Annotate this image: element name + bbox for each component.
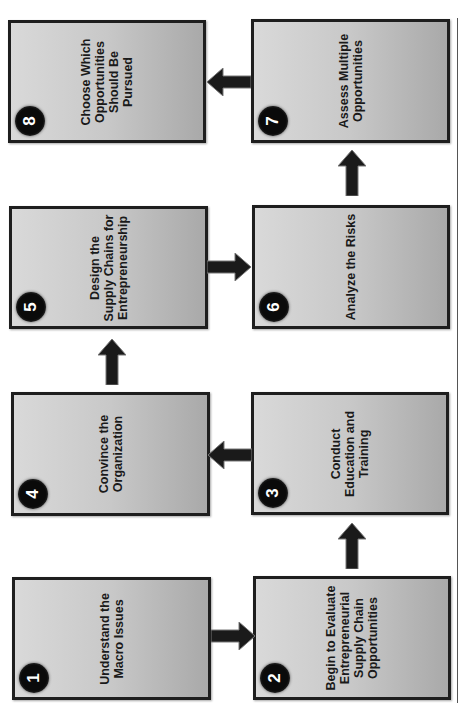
step-label-3: Conduct Education and Training xyxy=(329,396,371,511)
step-label-6: Analyze the Risks xyxy=(344,210,358,325)
arrow-up-6-to-7 xyxy=(338,150,366,196)
step-label-5: Design the Supply Chains for Entrepreneu… xyxy=(88,210,130,325)
step-number-badge-7: 7 xyxy=(258,106,288,136)
step-number-badge-1: 1 xyxy=(19,663,49,693)
step-label-2: Begin to Evaluate Entrepreneurial Supply… xyxy=(324,581,380,696)
step-number-badge-4: 4 xyxy=(18,479,48,509)
step-number-badge-6: 6 xyxy=(259,292,289,322)
step-label-8: Choose Which Opportunities Should Be Pur… xyxy=(79,24,135,139)
page-edge-rule xyxy=(457,18,458,703)
arrow-left-7-to-8 xyxy=(207,68,251,96)
step-box-3: Conduct Education and Training 3 xyxy=(251,392,449,515)
step-number-badge-3: 3 xyxy=(258,478,288,508)
step-box-8: Choose Which Opportunities Should Be Pur… xyxy=(8,20,206,143)
step-number-badge-5: 5 xyxy=(16,292,46,322)
step-box-1: Understand the Macro Issues 1 xyxy=(12,577,211,700)
step-box-4: Convince the Organization 4 xyxy=(11,392,210,516)
arrow-up-4-to-5 xyxy=(98,339,126,385)
step-number-badge-2: 2 xyxy=(260,663,290,693)
step-box-2: Begin to Evaluate Entrepreneurial Supply… xyxy=(253,576,451,700)
arrow-up-2-to-3 xyxy=(338,523,366,569)
arrow-right-1-to-2 xyxy=(211,622,255,650)
step-box-6: Analyze the Risks 6 xyxy=(252,205,450,329)
step-box-5: Design the Supply Chains for Entrepreneu… xyxy=(9,206,208,329)
step-label-1: Understand the Macro Issues xyxy=(98,581,126,696)
arrow-right-5-to-6 xyxy=(207,253,251,281)
arrow-left-3-to-4 xyxy=(208,441,252,469)
step-box-7: Assess Multiple Opportunities 7 xyxy=(251,19,450,143)
step-label-4: Convince the Organization xyxy=(97,397,125,512)
step-label-7: Assess Multiple Opportunities xyxy=(337,24,365,139)
step-number-badge-8: 8 xyxy=(15,106,45,136)
